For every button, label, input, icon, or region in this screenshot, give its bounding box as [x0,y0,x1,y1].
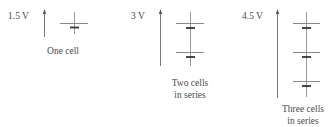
caption-three-cells: Three cells in series [271,103,331,127]
caption-line-2: in series [271,115,331,127]
voltage-arrow-head-icon [43,9,46,14]
caption-line-1: One cell [38,45,88,57]
caption-line-1: Three cells [271,103,331,115]
panel-three-cells [276,9,320,98]
panel-two-cells [159,9,204,66]
panel-one-cell [43,9,88,37]
caption-line-2: in series [160,89,220,101]
caption-line-1: Two cells [160,77,220,89]
caption-one-cell: One cell [38,45,88,57]
caption-two-cells: Two cells in series [160,77,220,101]
voltage-label-three-cells: 4.5 V [242,11,263,21]
voltage-arrow-head-icon [276,9,279,14]
voltage-label-two-cells: 3 V [131,11,145,21]
voltage-label-one-cell: 1.5 V [8,11,29,21]
voltage-arrow-head-icon [159,9,162,14]
